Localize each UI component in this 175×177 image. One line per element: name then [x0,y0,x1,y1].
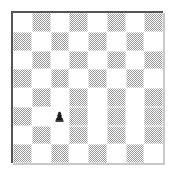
board-square-g8[interactable] [126,13,145,32]
board-square-e3[interactable] [88,107,107,126]
board-square-f7[interactable] [107,32,126,51]
pawn-icon [52,109,67,124]
board-square-c1[interactable] [51,144,70,163]
board-square-d1[interactable] [69,144,88,163]
board-square-f5[interactable] [107,69,126,88]
board-square-c3[interactable] [51,107,70,126]
board-square-c7[interactable] [51,32,70,51]
board-square-d4[interactable] [69,88,88,107]
board-grid [13,13,163,163]
board-square-h6[interactable] [144,51,163,70]
chess-diagram-root [0,0,175,177]
board-square-g1[interactable] [126,144,145,163]
board-square-g6[interactable] [126,51,145,70]
board-square-a5[interactable] [13,69,32,88]
board-square-g7[interactable] [126,32,145,51]
board-square-e4[interactable] [88,88,107,107]
board-square-a4[interactable] [13,88,32,107]
board-square-f6[interactable] [107,51,126,70]
board-square-b6[interactable] [32,51,51,70]
board-square-f1[interactable] [107,144,126,163]
board-square-b1[interactable] [32,144,51,163]
board-square-d8[interactable] [69,13,88,32]
board-square-h7[interactable] [144,32,163,51]
board-square-d6[interactable] [69,51,88,70]
board-square-d7[interactable] [69,32,88,51]
board-square-a7[interactable] [13,32,32,51]
board-square-e1[interactable] [88,144,107,163]
board-square-b2[interactable] [32,126,51,145]
board-square-e7[interactable] [88,32,107,51]
board-square-f3[interactable] [107,107,126,126]
board-square-b7[interactable] [32,32,51,51]
board-square-g3[interactable] [126,107,145,126]
board-square-b3[interactable] [32,107,51,126]
board-square-g2[interactable] [126,126,145,145]
board-square-d2[interactable] [69,126,88,145]
board-square-f2[interactable] [107,126,126,145]
board-square-a3[interactable] [13,107,32,126]
board-square-b5[interactable] [32,69,51,88]
board-square-e6[interactable] [88,51,107,70]
board-square-c6[interactable] [51,51,70,70]
board-square-h4[interactable] [144,88,163,107]
board-square-c8[interactable] [51,13,70,32]
board-square-c5[interactable] [51,69,70,88]
board-square-g4[interactable] [126,88,145,107]
board-square-b8[interactable] [32,13,51,32]
board-square-b4[interactable] [32,88,51,107]
board-square-h8[interactable] [144,13,163,32]
board-square-c4[interactable] [51,88,70,107]
board-square-a1[interactable] [13,144,32,163]
board-square-e8[interactable] [88,13,107,32]
board-square-a8[interactable] [13,13,32,32]
board-square-d3[interactable] [69,107,88,126]
piece-black-pawn[interactable] [51,107,70,126]
board-square-h1[interactable] [144,144,163,163]
board-square-e5[interactable] [88,69,107,88]
board-square-d5[interactable] [69,69,88,88]
board-square-c2[interactable] [51,126,70,145]
board-square-a2[interactable] [13,126,32,145]
board-square-g5[interactable] [126,69,145,88]
board-square-a6[interactable] [13,51,32,70]
board-square-h2[interactable] [144,126,163,145]
board-square-h5[interactable] [144,69,163,88]
board-square-f8[interactable] [107,13,126,32]
board-square-h3[interactable] [144,107,163,126]
board-square-f4[interactable] [107,88,126,107]
board-square-e2[interactable] [88,126,107,145]
